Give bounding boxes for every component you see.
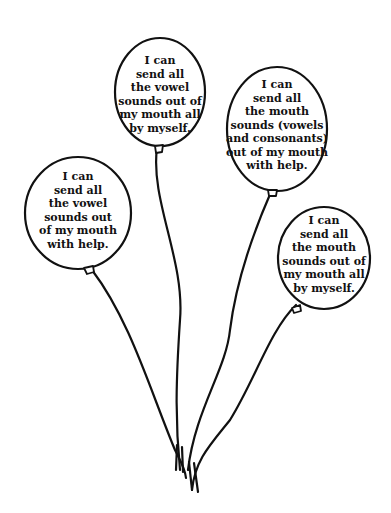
balloon-diagram: I can send all the vowel sounds out of m… xyxy=(0,0,391,513)
knot-top-right xyxy=(268,190,277,196)
string-top-right xyxy=(188,192,271,470)
string-left xyxy=(92,270,186,478)
balloon-text-bottom-right: I can send all the mouth sounds out of m… xyxy=(276,214,372,295)
balloon-text-left: I can send all the vowel sounds out of m… xyxy=(28,170,128,251)
balloon-text-top-center: I can send all the vowel sounds out of m… xyxy=(112,54,208,135)
string-top-center xyxy=(156,148,180,470)
balloon-text-top-right: I can send all the mouth sounds (vowels … xyxy=(225,78,329,173)
knot-left xyxy=(84,266,94,274)
knot-top-center xyxy=(155,145,163,153)
